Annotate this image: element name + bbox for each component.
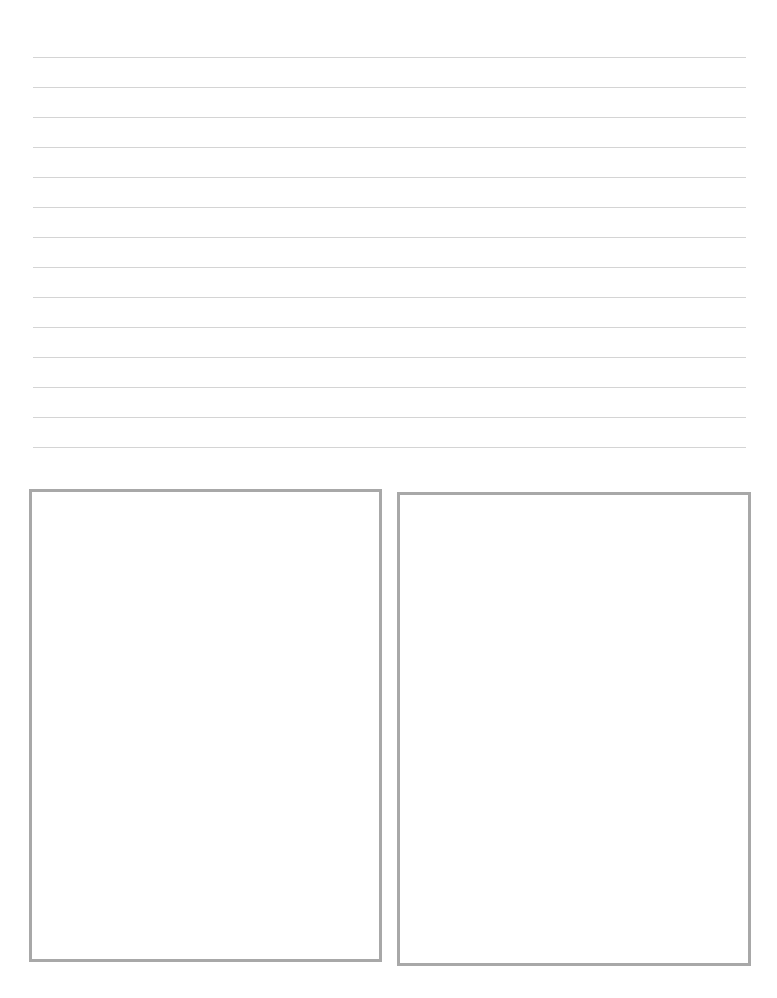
ruled-line [33,267,746,297]
drawing-box-left [29,489,382,962]
ruled-line [33,447,746,477]
ruled-line [33,177,746,207]
ruled-line [33,207,746,237]
drawing-box-right [397,492,751,966]
ruled-line [33,237,746,267]
ruled-line [33,327,746,357]
ruled-writing-area [33,57,746,477]
ruled-line [33,117,746,147]
ruled-line [33,297,746,327]
ruled-line [33,87,746,117]
ruled-line [33,387,746,417]
ruled-line [33,357,746,387]
ruled-line [33,417,746,447]
ruled-line [33,147,746,177]
ruled-line [33,57,746,87]
